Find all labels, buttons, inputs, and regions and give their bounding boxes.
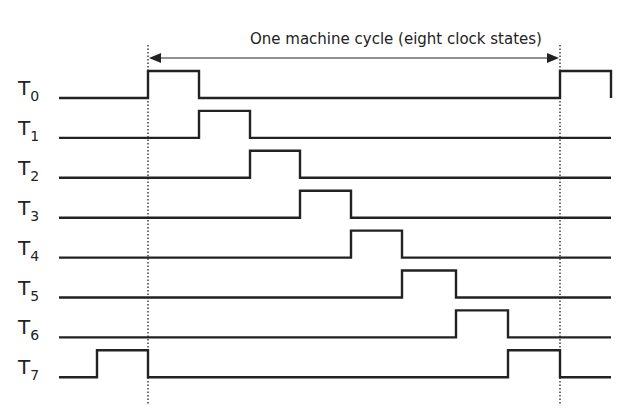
- signal-waveform-t4: [59, 231, 611, 258]
- signal-waveform-t2: [59, 151, 611, 178]
- signal-label-t5: T5: [18, 276, 39, 304]
- signal-waveform-t6: [59, 310, 611, 337]
- timing-diagram: [0, 0, 640, 419]
- signal-label-t2: T2: [18, 156, 39, 184]
- signal-waveform-t7: [59, 350, 611, 377]
- signal-label-t3: T3: [18, 196, 39, 224]
- signal-label-t4: T4: [18, 236, 39, 264]
- signal-waveform-t1: [59, 111, 611, 138]
- arrowhead-left-icon: [149, 53, 161, 63]
- signal-waveform-t0: [59, 71, 611, 98]
- cycle-title: One machine cycle (eight clock states): [250, 30, 542, 48]
- arrowhead-right-icon: [547, 53, 559, 63]
- signal-waveform-t5: [59, 271, 611, 298]
- signal-label-t6: T6: [18, 315, 39, 343]
- signal-label-t7: T7: [18, 355, 39, 383]
- signal-waveform-t3: [59, 191, 611, 218]
- signal-label-t1: T1: [18, 116, 39, 144]
- signal-label-t0: T0: [18, 76, 39, 104]
